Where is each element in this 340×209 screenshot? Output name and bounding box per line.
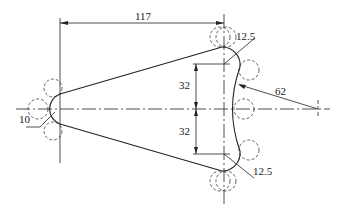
construction-circle xyxy=(210,171,230,191)
dim-32-arrow-top xyxy=(194,64,198,71)
dim-117-label: 117 xyxy=(135,11,151,22)
construction-circle xyxy=(216,27,236,47)
r62-arrow xyxy=(238,84,246,89)
construction-circle xyxy=(44,122,62,140)
construction-circle xyxy=(210,27,230,47)
dim-32-upper-label: 32 xyxy=(179,80,190,91)
dim-32-lower-label: 32 xyxy=(179,126,190,137)
dim-32-arrow-mid-up xyxy=(194,102,198,109)
construction-circle xyxy=(44,79,62,97)
dim-62-label: 62 xyxy=(275,86,286,97)
construction-circle xyxy=(216,171,236,191)
dim-117-arrow-right xyxy=(216,21,224,25)
construction-circle xyxy=(239,140,259,160)
dim-lower-fillet-label: 12.5 xyxy=(253,166,272,177)
construction-circle xyxy=(239,60,259,80)
dim-32-arrow-bottom xyxy=(194,147,198,154)
dim-117-arrow-left xyxy=(60,21,68,25)
lower-r12-leader xyxy=(224,154,254,178)
dim-32-arrow-mid-down xyxy=(194,109,198,116)
dim-upper-fillet-label: 12.5 xyxy=(236,31,255,42)
dim-10-label: 10 xyxy=(19,114,30,125)
technical-drawing xyxy=(0,0,340,209)
